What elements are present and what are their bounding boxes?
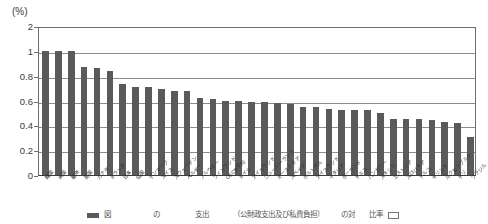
y-axis-tick-label: 0.8 — [0, 72, 33, 81]
y-axis-tick-label: 0.4 — [0, 121, 33, 130]
figure-caption: 図 の 支出 （公財政支出及び私費負担） の対 比率 — [0, 210, 486, 220]
bar — [55, 51, 62, 175]
bar — [132, 87, 139, 175]
bar — [107, 71, 114, 175]
bar — [248, 102, 255, 175]
bar — [171, 91, 178, 175]
bar-series — [39, 28, 475, 175]
legend-swatch-open — [388, 212, 399, 219]
legend-swatch-filled — [87, 213, 99, 218]
y-axis-tick-label: 0.6 — [0, 97, 33, 106]
bar — [94, 68, 101, 175]
y-axis-tick-label: 1 — [0, 47, 33, 56]
bar — [68, 51, 75, 175]
x-axis-category-labels: 韓国米国豪州英国カナダオランダ日本仏国デンマークスイススウェーデンベルギーノルウ… — [38, 177, 476, 207]
bar — [81, 67, 88, 175]
y-axis-unit-label: (%) — [12, 6, 28, 17]
plot-area — [38, 27, 476, 176]
bar — [364, 110, 371, 175]
bar — [145, 87, 152, 175]
bar — [119, 84, 126, 175]
y-axis-tick-label: 2 — [0, 22, 33, 31]
y-axis-tick-label: 0 — [0, 171, 33, 180]
y-axis-tick-label: 0.2 — [0, 146, 33, 155]
caption-text: 図 の 支出 （公財政支出及び私費負担） の対 比率 — [104, 210, 382, 219]
bar — [42, 51, 49, 175]
